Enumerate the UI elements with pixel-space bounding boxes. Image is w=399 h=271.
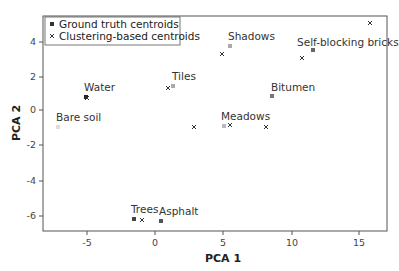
x-axis-title: PCA 1 (205, 252, 241, 265)
point-asphalt (159, 219, 163, 223)
y-tick-label: -2 (27, 139, 36, 150)
point-bare-soil (56, 125, 60, 129)
x-marker-icon (300, 56, 304, 60)
y-axis: 4 2 0 -2 -4 -6 PCA 2 (10, 36, 43, 221)
label-bitumen: Bitumen (271, 81, 315, 93)
label-meadows: Meadows (221, 110, 270, 122)
y-tick-label: 2 (30, 71, 36, 82)
label-water: Water (84, 81, 116, 93)
scatter-chart: -5 0 5 10 15 PCA 1 4 2 0 -2 -4 -6 PCA 2 … (0, 0, 399, 271)
x-marker-icon (192, 125, 196, 129)
point-bitumen (270, 94, 274, 98)
label-self-blocking: Self-blocking bricks (297, 36, 399, 48)
y-axis-title: PCA 2 (10, 105, 23, 141)
point-labels: Water Bare soil Tiles Shadows Self-block… (56, 30, 399, 217)
x-marker-icon (228, 123, 232, 127)
legend: Ground truth centroids Clustering-based … (45, 17, 200, 45)
legend-square-marker-icon (50, 22, 54, 26)
point-self-blocking (311, 48, 315, 52)
point-shadows (228, 44, 232, 48)
x-tick-label: 10 (286, 237, 298, 248)
y-tick-label: 0 (30, 104, 36, 115)
label-shadows: Shadows (228, 30, 275, 42)
label-bare-soil: Bare soil (56, 111, 101, 123)
y-tick-label: 4 (30, 36, 36, 47)
point-tiles (171, 84, 175, 88)
legend-clustering: Clustering-based centroids (59, 30, 200, 42)
x-tick-label: 5 (220, 237, 226, 248)
x-marker-icon (368, 21, 372, 25)
x-marker-icon (166, 86, 170, 90)
x-axis: -5 0 5 10 15 PCA 1 (82, 231, 365, 265)
x-tick-label: 15 (353, 237, 365, 248)
point-trees (132, 217, 136, 221)
y-tick-label: -6 (27, 210, 36, 221)
label-trees: Trees (130, 203, 158, 215)
label-asphalt: Asphalt (159, 205, 198, 217)
x-marker-icon (264, 125, 268, 129)
label-tiles: Tiles (171, 70, 196, 82)
y-tick-label: -4 (27, 175, 36, 186)
legend-ground-truth: Ground truth centroids (59, 18, 179, 30)
point-meadows (222, 124, 226, 128)
x-tick-label: 0 (152, 237, 158, 248)
plot-frame (43, 16, 387, 231)
x-tick-label: -5 (82, 237, 91, 248)
x-marker-icon (220, 52, 224, 56)
x-marker-icon (140, 218, 144, 222)
